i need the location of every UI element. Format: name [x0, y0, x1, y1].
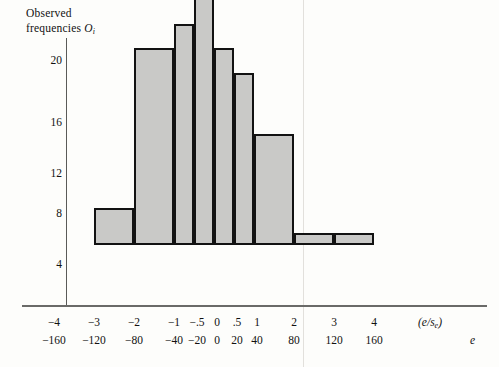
x-axis-tick-label-raw: 20: [231, 334, 243, 346]
x-axis-tick-label-raw: −20: [188, 334, 206, 346]
x-axis-tick-label-standardized: −.5: [189, 316, 204, 328]
x-axis-tick-label-standardized: .5: [233, 316, 242, 328]
histogram-bar: [174, 24, 194, 245]
x-axis-unit-standardized-head: (e/s: [418, 316, 435, 328]
x-axis-tick-label-standardized: 1: [254, 316, 260, 328]
histogram-bar: [294, 233, 334, 245]
histogram-bar: [334, 233, 374, 245]
histogram-bar: [194, 0, 214, 245]
x-axis-tick-label-standardized: 4: [371, 316, 377, 328]
x-axis-tick-label-raw: 120: [325, 334, 342, 346]
x-axis-tick-label-standardized: 2: [291, 316, 297, 328]
x-axis-tick-label-standardized: 0: [214, 316, 220, 328]
x-axis-tick-label-standardized: 3: [331, 316, 337, 328]
bar-series: [0, 0, 499, 306]
x-axis-unit-raw: e: [470, 334, 475, 346]
histogram-bar: [234, 73, 254, 245]
x-axis-unit-standardized: (e/se): [418, 316, 442, 330]
histogram-bar: [94, 208, 134, 245]
x-axis-tick-label-standardized: −1: [168, 316, 180, 328]
x-axis-tick-label-raw: 80: [288, 334, 300, 346]
x-axis-tick-label-standardized: −2: [128, 316, 140, 328]
x-axis-tick-label-raw: −40: [165, 334, 183, 346]
x-axis-tick-label-raw: −120: [82, 334, 106, 346]
x-axis-tick-label-raw: 40: [251, 334, 263, 346]
x-axis-tick-label-raw: 0: [214, 334, 220, 346]
histogram-bar: [134, 48, 174, 245]
x-axis-tick-label-raw: 160: [365, 334, 382, 346]
histogram-figure: Observed frequencies Oi 20161284 −4−160−…: [0, 0, 499, 367]
histogram-bar: [254, 134, 294, 245]
histogram-bar: [214, 48, 234, 245]
x-axis-tick-label-raw: −160: [42, 334, 66, 346]
x-axis-tick-label-standardized: −4: [48, 316, 60, 328]
x-axis-tick-label-standardized: −3: [88, 316, 100, 328]
x-axis-unit-standardized-tail: ): [438, 316, 442, 328]
x-axis-tick-label-raw: −80: [125, 334, 143, 346]
